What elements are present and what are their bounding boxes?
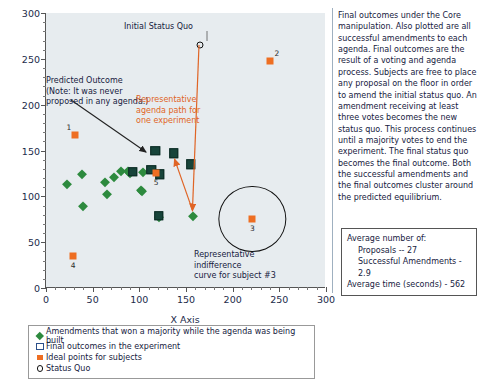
x-tick-minor (307, 287, 308, 290)
annotation-initial-status-quo: Initial Status Quo (124, 22, 193, 33)
y-tick-label: 200 (22, 99, 40, 110)
amendment-point (78, 170, 87, 179)
y-tick-label: 300 (22, 8, 40, 19)
y-tick-minor (43, 187, 46, 188)
x-tick-minor (242, 287, 243, 290)
annotation-predicted-outcome: Predicted Outcome (Note: It was never pr… (46, 76, 148, 108)
x-tick-minor (102, 287, 103, 290)
x-tick-minor (55, 287, 56, 290)
amendment-point (138, 186, 147, 195)
x-tick-minor (74, 287, 75, 290)
y-tick-label: 100 (22, 191, 40, 202)
x-tick-minor (195, 287, 196, 290)
x-tick-minor (130, 287, 131, 290)
amendment-point (189, 211, 198, 220)
y-tick-minor (43, 224, 46, 225)
x-tick (139, 287, 140, 292)
x-tick-minor (261, 287, 262, 290)
legend-item-amendments: Amendments that won a majority while the… (34, 330, 309, 341)
stats-successful-amendments: Successful Amendments - 2.9 (347, 256, 471, 279)
y-tick (41, 242, 46, 243)
y-tick-minor (43, 132, 46, 133)
ideal-point-label: 2 (275, 49, 280, 58)
final-outcome-point (150, 146, 160, 156)
ideal-point (249, 216, 256, 223)
x-tick-minor (83, 287, 84, 290)
chart-legend: Amendments that won a majority while the… (28, 325, 315, 379)
y-tick-minor (43, 178, 46, 179)
description-text: Final outcomes under the Core manipulati… (338, 10, 478, 203)
y-tick-minor (43, 31, 46, 32)
x-tick-minor (158, 287, 159, 290)
x-tick-label: 50 (87, 294, 99, 305)
x-tick-label: 100 (130, 294, 148, 305)
x-tick-minor (167, 287, 168, 290)
y-tick-minor (43, 261, 46, 262)
x-tick-minor (251, 287, 252, 290)
square-open-icon (34, 343, 46, 351)
status-quo-point (197, 42, 204, 49)
y-tick-label: 250 (22, 53, 40, 64)
stats-heading: Average number of: (347, 233, 471, 245)
stats-summary-box: Average number of: Proposals -- 27 Succe… (341, 228, 477, 296)
y-tick (41, 59, 46, 60)
x-tick-minor (205, 287, 206, 290)
panel-divider (332, 8, 333, 293)
amendment-point (62, 180, 71, 189)
y-tick-minor (43, 141, 46, 142)
y-tick-minor (43, 160, 46, 161)
y-tick-minor (43, 215, 46, 216)
x-tick (279, 287, 280, 292)
x-tick (326, 287, 327, 292)
ideal-point (71, 131, 78, 138)
final-outcome-point (154, 211, 164, 221)
y-tick (41, 151, 46, 152)
x-tick-minor (149, 287, 150, 290)
y-tick-label: 150 (22, 145, 40, 156)
annotation-indifference-curve: Representative indifference curve for su… (194, 250, 302, 282)
y-tick (41, 196, 46, 197)
y-tick-minor (43, 206, 46, 207)
square-orange-icon (34, 355, 46, 361)
x-tick (93, 287, 94, 292)
stats-proposals: Proposals -- 27 (347, 245, 471, 257)
ideal-point-label: 3 (250, 224, 255, 233)
amendment-point (110, 172, 119, 181)
amendment-point (102, 189, 111, 198)
y-tick-minor (43, 169, 46, 170)
y-tick-minor (43, 22, 46, 23)
x-tick-minor (121, 287, 122, 290)
x-tick-label: 0 (43, 294, 49, 305)
x-tick-label: 300 (317, 294, 335, 305)
stats-average-time: Average time (seconds) - 562 (347, 279, 471, 291)
y-tick-minor (43, 270, 46, 271)
amendment-point (100, 177, 109, 186)
y-tick-label: 0 (34, 283, 40, 294)
circle-open-icon (34, 365, 46, 372)
x-tick-label: 200 (224, 294, 242, 305)
diamond-green-icon (34, 333, 46, 339)
x-tick-label: 250 (270, 294, 288, 305)
ideal-point-label: 5 (154, 178, 159, 187)
legend-item-status-quo: Status Quo (34, 363, 309, 374)
legend-label: Status Quo (46, 364, 90, 373)
x-tick-minor (298, 287, 299, 290)
y-tick-label: 50 (28, 237, 40, 248)
y-tick-minor (43, 41, 46, 42)
y-tick-minor (43, 251, 46, 252)
x-tick-label: 150 (177, 294, 195, 305)
x-tick (186, 287, 187, 292)
plot-area: 0501001502002503000501001502002503001234… (45, 13, 325, 288)
legend-item-ideal-points: Ideal points for subjects (34, 352, 309, 363)
scatter-chart: 0501001502002503000501001502002503001234… (0, 0, 330, 300)
x-axis-title: X Axis (45, 314, 325, 325)
ideal-point (267, 57, 274, 64)
x-tick-minor (214, 287, 215, 290)
legend-label: Ideal points for subjects (46, 353, 142, 362)
x-tick-minor (223, 287, 224, 290)
ideal-point-label: 1 (67, 123, 72, 132)
x-tick (233, 287, 234, 292)
final-outcome-point (169, 149, 179, 159)
figure-root: 0501001502002503000501001502002503001234… (0, 0, 484, 379)
y-tick-minor (43, 279, 46, 280)
